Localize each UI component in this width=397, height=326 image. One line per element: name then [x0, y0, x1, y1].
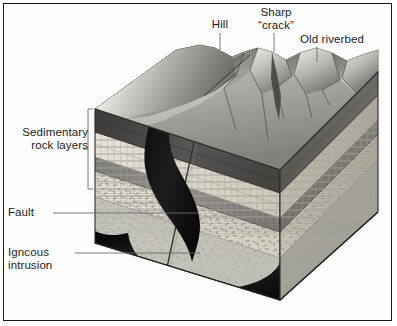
geology-block-diagram — [0, 0, 397, 326]
label-fault: Fault — [8, 206, 52, 219]
label-old-riverbed: Old riverbed — [282, 33, 382, 46]
label-igneous-intrusion: Igncous intrusion — [8, 246, 74, 272]
figure-page: Hill Sharp “crack” Old riverbed Sediment… — [0, 0, 397, 326]
label-sedimentary-rock-layers: Sedimentary rock layers — [4, 126, 88, 152]
leader-sedimentary-bracket — [88, 109, 93, 189]
label-sharp-crack: Sharp “crack” — [245, 6, 307, 32]
label-hill: Hill — [200, 18, 240, 31]
